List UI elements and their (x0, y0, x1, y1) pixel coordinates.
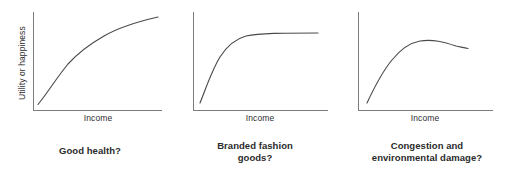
x-axis-label-panel-2: Income (225, 113, 295, 123)
panel-branded-fashion-goods: Income Branded fashion goods? (170, 0, 340, 180)
curve-congestion-environmental-damage (367, 40, 468, 103)
caption-panel-2: Branded fashion goods? (190, 140, 320, 164)
panel-good-health: Utility or happiness Income Good health? (0, 0, 170, 180)
caption-panel-1: Good health? (15, 145, 165, 157)
panel-congestion-environmental-damage: Income Congestion and environmental dama… (340, 0, 513, 180)
plot-area-panel-1 (0, 0, 170, 120)
x-axis-label-panel-3: Income (390, 113, 460, 123)
curve-good-health (38, 17, 158, 105)
curve-branded-fashion-goods (200, 33, 318, 103)
x-axis-label-panel-1: Income (63, 113, 133, 123)
three-panel-utility-income-figure: Utility or happiness Income Good health?… (0, 0, 513, 180)
caption-panel-3: Congestion and environmental damage? (347, 140, 507, 164)
plot-area-panel-3 (340, 0, 513, 120)
plot-area-panel-2 (170, 0, 340, 120)
